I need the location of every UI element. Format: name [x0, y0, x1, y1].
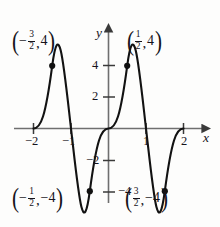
fraction-one-half: 1 2 — [135, 30, 142, 51]
paren-close: ) — [161, 187, 168, 209]
y-tick-label-4: 4 — [92, 59, 98, 72]
comma: , — [36, 193, 40, 209]
x-tick-label-2: 2 — [181, 135, 187, 148]
point-annotation-bottom-left: ( − 1 2 , −4 ) — [11, 187, 64, 210]
y-value: 4 — [147, 34, 154, 48]
x-axis-label: x — [203, 131, 209, 145]
y-value: −4 — [145, 191, 160, 205]
x-tick-label-1: 1 — [143, 135, 149, 148]
y-tick-label-minus-2: −2 — [86, 154, 99, 167]
paren-close: ) — [56, 187, 63, 209]
point-marker-min-left — [87, 188, 93, 194]
y-value: −4 — [40, 191, 55, 205]
point-annotation-top-left: ( − 3 2 , 4 ) — [11, 30, 56, 53]
y-tick-label-2: 2 — [92, 90, 98, 103]
comma: , — [143, 36, 147, 52]
paren-close: ) — [155, 30, 162, 52]
fraction-three-halves: 3 2 — [28, 30, 35, 51]
paren-open: ( — [12, 187, 19, 209]
comma: , — [141, 193, 145, 209]
point-marker-max-right — [124, 63, 130, 69]
sign-negative: − — [19, 191, 27, 205]
paren-open: ( — [12, 30, 19, 52]
paren-open: ( — [127, 30, 134, 52]
y-axis-label: y — [96, 26, 102, 40]
paren-open: ( — [125, 187, 132, 209]
x-tick-label-minus-2: −2 — [25, 135, 38, 148]
comma: , — [36, 36, 40, 52]
paren-close: ) — [48, 30, 55, 52]
point-marker-max-left — [49, 63, 55, 69]
graph-figure: y x −2 −1 1 2 4 2 −2 −4 ( − 3 2 , 4 ) ( … — [0, 0, 220, 227]
x-tick-label-minus-1: −1 — [62, 135, 75, 148]
fraction-three-halves: 3 2 — [133, 187, 140, 208]
fraction-one-half: 1 2 — [28, 187, 35, 208]
y-value: 4 — [40, 34, 47, 48]
point-annotation-bottom-right: ( 3 2 , −4 ) — [124, 187, 168, 210]
sign-negative: − — [19, 34, 27, 48]
point-annotation-top-right: ( 1 2 , 4 ) — [126, 30, 162, 53]
